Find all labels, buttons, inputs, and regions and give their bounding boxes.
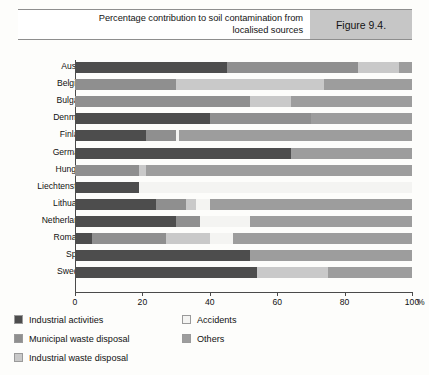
bar-segment[interactable] (328, 267, 412, 278)
bar-segment[interactable] (176, 216, 200, 227)
bar-segment[interactable] (75, 62, 227, 73)
bar-segment[interactable] (139, 182, 412, 193)
bar-track[interactable] (75, 250, 412, 261)
bar-segment[interactable] (227, 62, 358, 73)
bar-segment[interactable] (250, 96, 290, 107)
bar-row: Austria (0, 62, 429, 73)
x-axis-tick-label: 60 (272, 297, 282, 307)
bar-segment[interactable] (179, 130, 412, 141)
bar-segment[interactable] (200, 216, 251, 227)
legend-label: Municipal waste disposal (29, 334, 130, 344)
bar-track[interactable] (75, 216, 412, 227)
bar-segment[interactable] (250, 250, 412, 261)
bar-row: Sweden (0, 267, 429, 278)
bar-row: Spain (0, 250, 429, 261)
bar-segment[interactable] (146, 130, 176, 141)
bar-segment[interactable] (75, 96, 250, 107)
bar-segment[interactable] (75, 130, 146, 141)
bar-segment[interactable] (399, 62, 412, 73)
legend-swatch-icon (14, 334, 23, 343)
bar-segment[interactable] (75, 233, 92, 244)
bar-track[interactable] (75, 182, 412, 193)
legend-swatch-icon (14, 315, 23, 324)
bar-row: Finland (0, 130, 429, 141)
x-axis-tick-label: 40 (205, 297, 215, 307)
bar-row: Belgium (0, 79, 429, 90)
legend-label: Industrial waste disposal (29, 353, 128, 363)
legend-label: Accidents (197, 315, 236, 325)
bar-track[interactable] (75, 267, 412, 278)
legend-swatch-icon (14, 353, 23, 362)
bar-segment[interactable] (166, 233, 210, 244)
bar-segment[interactable] (75, 267, 257, 278)
figure-number-cell: Figure 9.4. (310, 10, 412, 39)
legend-column-left: Industrial activitiesMunicipal waste dis… (14, 311, 130, 368)
bar-row: Lithuania (0, 199, 429, 210)
x-axis-tick (277, 292, 278, 296)
bar-segment[interactable] (75, 182, 139, 193)
bar-segment[interactable] (233, 233, 412, 244)
stacked-bar-chart: AustriaBelgiumBulgariaDenmarkFinlandGerm… (0, 52, 429, 302)
bar-segment[interactable] (210, 233, 234, 244)
legend-item[interactable]: Accidents (182, 311, 236, 328)
bar-track[interactable] (75, 199, 412, 210)
bar-segment[interactable] (156, 199, 186, 210)
figure-number-label: Figure 9.4. (336, 19, 386, 31)
legend-swatch-icon (182, 315, 191, 324)
bar-track[interactable] (75, 79, 412, 90)
bar-segment[interactable] (75, 148, 291, 159)
bar-segment[interactable] (250, 216, 412, 227)
bar-row: Netherlands (0, 216, 429, 227)
bar-segment[interactable] (75, 199, 156, 210)
bar-segment[interactable] (291, 148, 412, 159)
bar-segment[interactable] (291, 96, 412, 107)
legend-swatch-icon (182, 334, 191, 343)
x-axis-tick (142, 292, 143, 296)
page-title: Percentage contribution to soil contamin… (99, 13, 303, 36)
bar-segment[interactable] (139, 165, 146, 176)
bar-segment[interactable] (257, 267, 328, 278)
bar-segment[interactable] (186, 199, 196, 210)
bar-row: Bulgaria (0, 96, 429, 107)
x-axis-tick (345, 292, 346, 296)
bar-track[interactable] (75, 62, 412, 73)
bar-segment[interactable] (146, 165, 412, 176)
bar-segment[interactable] (196, 199, 209, 210)
bar-segment[interactable] (75, 165, 139, 176)
bar-row: Romania (0, 233, 429, 244)
chart-legend: Industrial activitiesMunicipal waste dis… (14, 311, 414, 369)
x-axis-tick-label: 80 (340, 297, 350, 307)
bar-row: Hungary (0, 165, 429, 176)
x-axis-tick (75, 292, 76, 296)
bar-segment[interactable] (75, 216, 176, 227)
bar-track[interactable] (75, 165, 412, 176)
figure-header-bar: Percentage contribution to soil contamin… (18, 9, 412, 40)
bar-segment[interactable] (210, 113, 311, 124)
x-axis-line (75, 292, 413, 293)
bar-track[interactable] (75, 233, 412, 244)
bar-segment[interactable] (311, 113, 412, 124)
bar-segment[interactable] (75, 79, 176, 90)
bar-segment[interactable] (92, 233, 166, 244)
x-axis-tick (210, 292, 211, 296)
bar-segment[interactable] (75, 250, 250, 261)
bar-row: Liechtenstein (0, 182, 429, 193)
bar-track[interactable] (75, 113, 412, 124)
bar-row: Denmark (0, 113, 429, 124)
bar-track[interactable] (75, 148, 412, 159)
legend-item[interactable]: Others (182, 330, 236, 347)
bar-segment[interactable] (210, 199, 412, 210)
figure-title-cell: Percentage contribution to soil contamin… (18, 10, 310, 39)
bar-track[interactable] (75, 96, 412, 107)
bar-track[interactable] (75, 130, 412, 141)
legend-label: Industrial activities (29, 315, 103, 325)
legend-item[interactable]: Municipal waste disposal (14, 330, 130, 347)
legend-label: Others (197, 334, 224, 344)
bar-segment[interactable] (324, 79, 412, 90)
bar-segment[interactable] (75, 113, 210, 124)
bar-segment[interactable] (176, 79, 324, 90)
bar-segment[interactable] (358, 62, 398, 73)
legend-item[interactable]: Industrial activities (14, 311, 130, 328)
bar-row: Germany (0, 148, 429, 159)
legend-item[interactable]: Industrial waste disposal (14, 349, 130, 366)
